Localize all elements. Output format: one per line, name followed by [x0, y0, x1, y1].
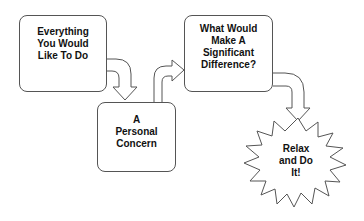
node-a-personal-concern: A Personal Concern — [97, 102, 176, 172]
flow-diagram: Everything You Would Like To Do A Person… — [0, 0, 364, 221]
node-everything-you-would-like-to-do: Everything You Would Like To Do — [19, 15, 107, 92]
node-label: A Personal Concern — [115, 114, 157, 150]
node-label: Everything You Would Like To Do — [37, 26, 89, 62]
node-what-would-make-a-significant-difference: What Would Make A Significant Difference… — [184, 15, 273, 92]
node-label: What Would Make A Significant Difference… — [200, 23, 258, 71]
arrow-box1-to-box2 — [107, 59, 137, 100]
starburst-label: Relax and Do It! — [266, 143, 326, 179]
arrow-box3-to-burst — [273, 73, 310, 121]
arrow-box2-to-box3 — [154, 60, 184, 102]
